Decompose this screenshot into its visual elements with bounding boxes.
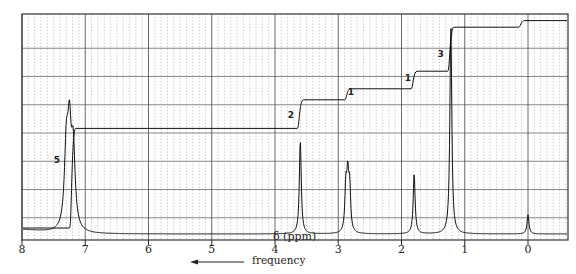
frequency-arrow [190,260,244,265]
x-tick-label: 1 [461,243,468,256]
x-tick-label: 3 [335,243,342,256]
x-tick-label: 8 [19,243,26,256]
integration-curve [23,21,567,228]
chart-grid [22,14,568,240]
frequency-label: frequency [252,254,305,266]
x-axis-title: δ (ppm) [273,230,316,243]
x-tick-label: 6 [145,243,152,256]
x-tick-label: 7 [82,243,89,256]
x-tick-label: 0 [525,243,532,256]
integration-label: 5 [54,155,60,165]
integration-label: 1 [348,87,354,97]
integration-label: 3 [438,49,444,59]
integration-label: 2 [288,110,294,120]
integration-label: 1 [405,73,411,83]
x-tick-label: 5 [208,243,215,256]
spectrum-trace [23,29,567,234]
x-tick-label: 2 [398,243,405,256]
